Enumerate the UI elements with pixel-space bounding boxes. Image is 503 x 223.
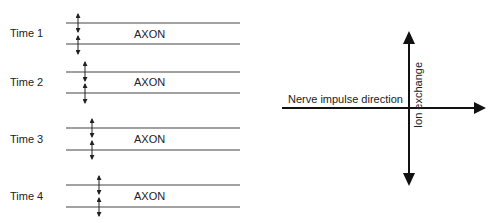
axon-label-3: AXON — [134, 134, 165, 145]
axon-label-4: AXON — [134, 191, 165, 202]
time-label-1: Time 1 — [10, 28, 43, 39]
arrow-up-icon — [403, 31, 415, 44]
axon-label-1: AXON — [134, 29, 165, 40]
time-label-3: Time 3 — [10, 134, 43, 145]
ion-exchange-label: Ion exchange — [413, 62, 424, 128]
arrow-right-icon — [474, 102, 486, 114]
nerve-impulse-direction-label: Nerve impulse direction — [288, 94, 403, 105]
time-label-4: Time 4 — [10, 191, 43, 202]
arrow-down-icon — [403, 173, 415, 186]
direction-axes — [282, 31, 486, 186]
axon-label-2: AXON — [134, 77, 165, 88]
time-label-2: Time 2 — [10, 77, 43, 88]
diagram-canvas — [0, 0, 503, 223]
